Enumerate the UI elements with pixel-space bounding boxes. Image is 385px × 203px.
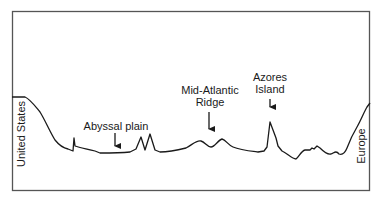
mid-atlantic-ridge-label-line2: Ridge bbox=[196, 96, 225, 108]
diagram-frame bbox=[13, 12, 370, 191]
seafloor-profile-line bbox=[12, 97, 370, 159]
azores-island-label-line1: Azores bbox=[253, 71, 288, 83]
united-states-label: United States bbox=[15, 100, 27, 167]
ocean-floor-diagram: United States Europe Abyssal plain Mid-A… bbox=[0, 0, 385, 203]
azores-island-label-line2: Island bbox=[255, 83, 284, 95]
europe-label: Europe bbox=[355, 128, 367, 163]
mid-atlantic-ridge-label-line1: Mid-Atlantic bbox=[181, 84, 239, 96]
abyssal-plain-label: Abyssal plain bbox=[84, 120, 149, 132]
